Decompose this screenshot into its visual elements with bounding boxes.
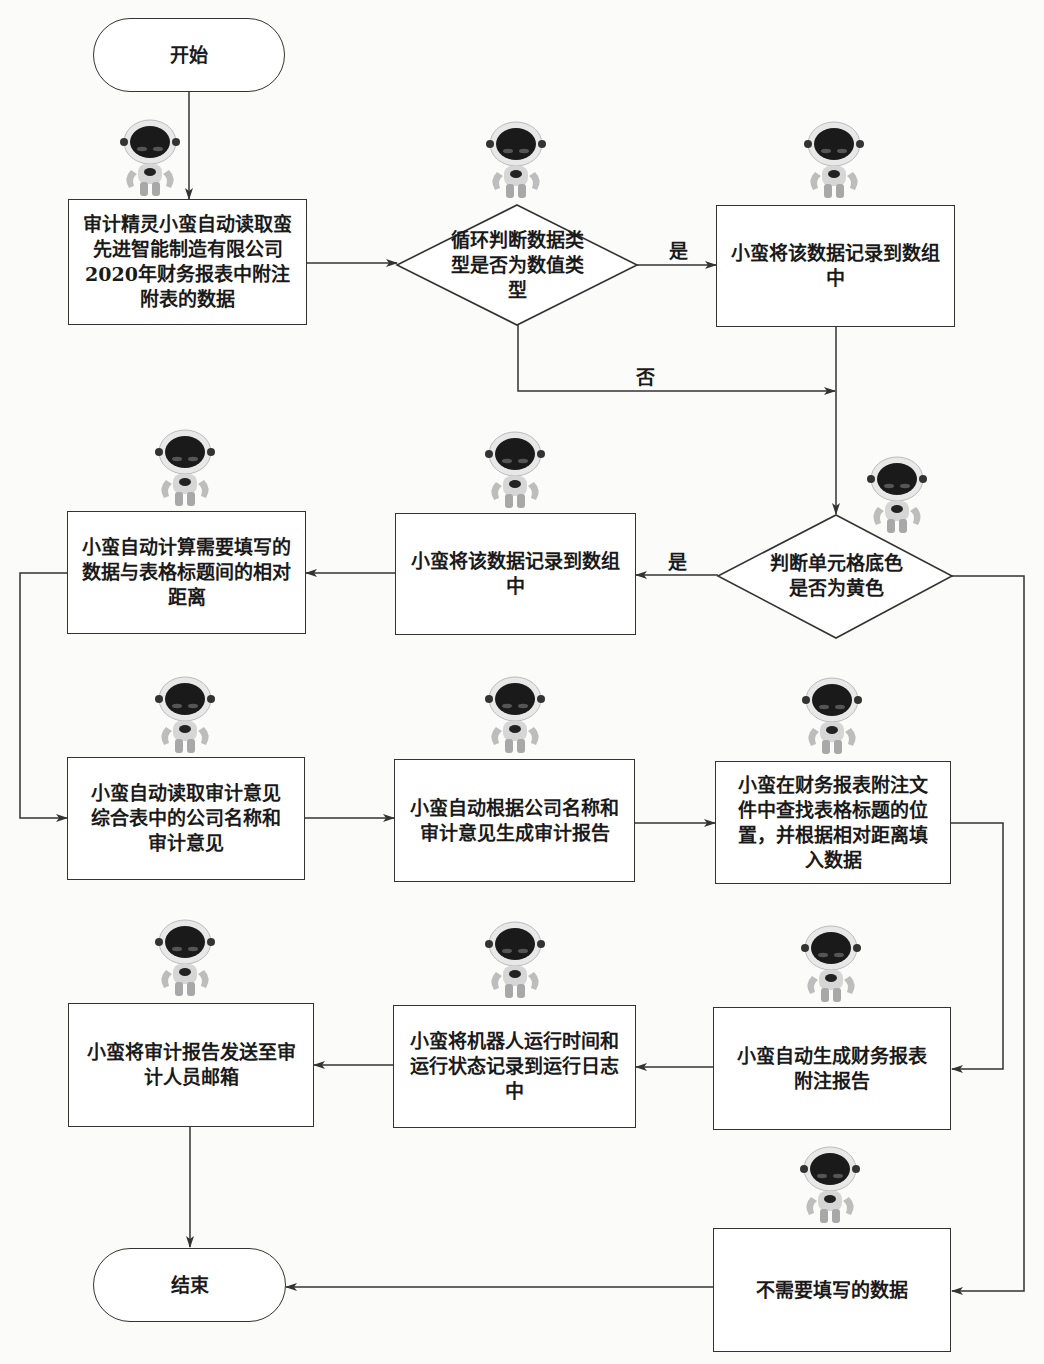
- process-send-email-label: 小蛮将审计报告发送至审计人员邮箱: [83, 1040, 299, 1090]
- start-label: 开始: [170, 43, 208, 68]
- process-no-fill: 不需要填写的数据: [713, 1228, 951, 1352]
- decision-numeric-label-box: 循环判断数据类型是否为数值类型: [447, 225, 587, 305]
- robot-icon: [862, 455, 932, 535]
- robot-icon: [150, 428, 220, 508]
- decision-yellow-label-box: 判断单元格底色是否为黄色: [768, 536, 904, 616]
- edge-calc-read-opinion: [20, 573, 67, 818]
- robot-icon: [796, 924, 866, 1004]
- process-fill-data-label: 小蛮在财务报表附注文件中查找表格标题的位置，并根据相对距离填入数据: [730, 773, 936, 873]
- process-record-array-1-label: 小蛮将该数据记录到数组中: [731, 241, 940, 291]
- robot-icon: [795, 1145, 865, 1225]
- start-terminal: 开始: [93, 18, 285, 92]
- process-no-fill-label: 不需要填写的数据: [756, 1278, 908, 1303]
- process-log-run: 小蛮将机器人运行时间和运行状态记录到运行日志中: [393, 1005, 636, 1128]
- process-record-array-2-label: 小蛮将该数据记录到数组中: [410, 549, 621, 599]
- flowchart-canvas: 开始 审计精灵小蛮自动读取蛮先进智能制造有限公司2020年财务报表中附注附表的数…: [0, 0, 1044, 1364]
- process-record-array-1: 小蛮将该数据记录到数组中: [716, 205, 955, 327]
- process-calc-distance-label: 小蛮自动计算需要填写的数据与表格标题间的相对距离: [82, 535, 291, 610]
- robot-icon: [480, 430, 550, 510]
- end-terminal: 结束: [93, 1248, 286, 1322]
- decision-numeric-label: 循环判断数据类型是否为数值类型: [447, 228, 587, 303]
- process-read-opinion: 小蛮自动读取审计意见综合表中的公司名称和审计意见: [67, 757, 305, 880]
- robot-icon: [797, 676, 867, 756]
- edge-fill-notes: [951, 823, 1003, 1069]
- process-gen-audit-report: 小蛮自动根据公司名称和审计意见生成审计报告: [394, 759, 635, 882]
- process-gen-notes-report-label: 小蛮自动生成财务报表附注报告: [728, 1044, 936, 1094]
- robot-icon: [481, 120, 551, 200]
- robot-icon: [480, 675, 550, 755]
- process-calc-distance: 小蛮自动计算需要填写的数据与表格标题间的相对距离: [67, 511, 306, 634]
- process-read-data-label: 审计精灵小蛮自动读取蛮先进智能制造有限公司2020年财务报表中附注附表的数据: [83, 212, 292, 312]
- process-gen-notes-report: 小蛮自动生成财务报表附注报告: [713, 1007, 951, 1130]
- decision-yellow-label: 判断单元格底色是否为黄色: [768, 551, 904, 601]
- robot-icon: [799, 120, 869, 200]
- process-read-opinion-label: 小蛮自动读取审计意见综合表中的公司名称和审计意见: [82, 781, 290, 856]
- robot-icon: [150, 918, 220, 998]
- process-record-array-2: 小蛮将该数据记录到数组中: [395, 513, 636, 635]
- process-gen-audit-report-label: 小蛮自动根据公司名称和审计意见生成审计报告: [409, 796, 620, 846]
- edge-yellow-no: [952, 576, 1024, 1291]
- process-read-data: 审计精灵小蛮自动读取蛮先进智能制造有限公司2020年财务报表中附注附表的数据: [68, 199, 307, 325]
- robot-icon: [115, 118, 185, 198]
- process-send-email: 小蛮将审计报告发送至审计人员邮箱: [68, 1003, 314, 1127]
- edge-label-numeric-yes: 是: [669, 236, 688, 263]
- edge-label-numeric-no: 否: [636, 362, 655, 389]
- robot-icon: [480, 920, 550, 1000]
- robot-icon: [150, 675, 220, 755]
- edge-label-yellow-yes: 是: [668, 547, 687, 574]
- end-label: 结束: [171, 1273, 209, 1298]
- edge-numeric-no: [518, 325, 835, 391]
- process-fill-data: 小蛮在财务报表附注文件中查找表格标题的位置，并根据相对距离填入数据: [715, 761, 951, 884]
- process-log-run-label: 小蛮将机器人运行时间和运行状态记录到运行日志中: [408, 1029, 621, 1104]
